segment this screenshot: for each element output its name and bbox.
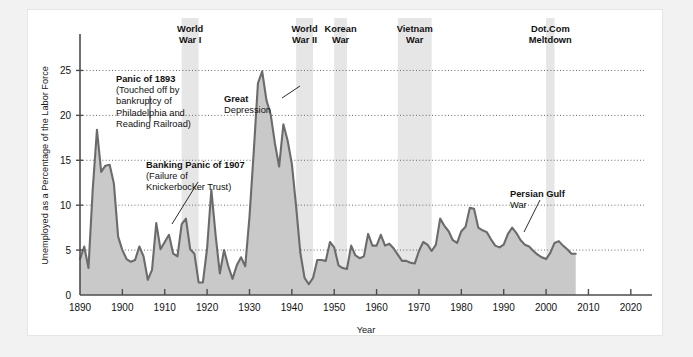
annotation-persian-gulf-war-line-0: Persian Gulf — [510, 189, 566, 199]
annotation-banking-panic-1907-line-2: Knickerbocker Trust) — [146, 182, 231, 192]
band-label-0-line-0: World — [177, 24, 203, 34]
band-label-3-line-0: Vietnam — [397, 24, 433, 34]
band-label-0-line-1: War I — [179, 35, 201, 45]
x-tick-label-1930: 1930 — [238, 302, 261, 313]
y-tick-label-20: 20 — [60, 110, 72, 121]
band-label-2-line-1: War — [332, 35, 350, 45]
band-label-3-line-1: War — [406, 35, 424, 45]
x-tick-label-2000: 2000 — [535, 302, 558, 313]
y-tick-label-25: 25 — [60, 65, 72, 76]
annotation-persian-gulf-war-line-1: War — [510, 200, 527, 210]
annotation-banking-panic-1907-line-1: (Failure of — [146, 171, 188, 181]
chart-card: 0510152025189019001910192019301940195019… — [28, 10, 662, 335]
x-tick-label-1990: 1990 — [493, 302, 516, 313]
x-tick-label-2010: 2010 — [577, 302, 600, 313]
annotation-great-depression-line-0: Great — [224, 94, 248, 104]
annotation-panic-1893-line-4: Reading Railroad) — [116, 119, 191, 129]
x-tick-label-1970: 1970 — [408, 302, 431, 313]
x-tick-label-1940: 1940 — [281, 302, 304, 313]
x-tick-label-1920: 1920 — [196, 302, 219, 313]
y-tick-label-15: 15 — [60, 155, 72, 166]
annotation-panic-1893-line-1: (Touched off by — [116, 85, 180, 95]
annotation-banking-panic-1907-line-0: Banking Panic of 1907 — [146, 160, 245, 170]
band-label-1-line-1: War II — [292, 35, 317, 45]
x-tick-label-1960: 1960 — [365, 302, 388, 313]
y-tick-label-10: 10 — [60, 200, 72, 211]
x-tick-label-1890: 1890 — [69, 302, 92, 313]
x-tick-label-1980: 1980 — [450, 302, 473, 313]
unemployment-chart: 0510152025189019001910192019301940195019… — [28, 10, 662, 335]
x-tick-label-1910: 1910 — [154, 302, 177, 313]
annotation-great-depression-line-1: Depression — [224, 105, 271, 115]
band-label-4-line-1: Meltdown — [529, 35, 572, 45]
band-label-1-line-0: World — [291, 24, 317, 34]
annotation-panic-1893-line-2: bankruptcy of — [116, 96, 172, 106]
band-labels: WorldWar IWorldWar IIKoreanWarVietnamWar… — [177, 24, 572, 45]
chart-svg: 0510152025189019001910192019301940195019… — [28, 10, 662, 335]
y-axis-title: Unemployed as a Percentage of the Labor … — [40, 66, 50, 265]
y-tick-label-5: 5 — [65, 245, 71, 256]
band-label-2-line-0: Korean — [325, 24, 357, 34]
annotation-panic-1893-line-0: Panic of 1893 — [116, 74, 175, 84]
x-tick-label-1950: 1950 — [323, 302, 346, 313]
x-axis-title: Year — [357, 325, 376, 335]
x-tick-label-1900: 1900 — [111, 302, 134, 313]
x-tick-label-2020: 2020 — [620, 302, 643, 313]
y-tick-label-0: 0 — [65, 290, 71, 301]
band-label-4-line-0: Dot.Com — [531, 24, 570, 34]
